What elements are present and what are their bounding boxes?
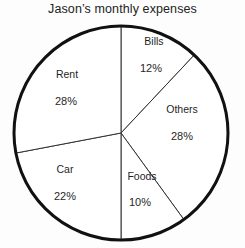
pie-slice-rent <box>14 26 121 153</box>
slice-value-rent: 28% <box>43 95 89 107</box>
slice-value-foods: 10% <box>119 196 161 208</box>
pie-chart-canvas <box>0 0 245 248</box>
slice-label-others: Others <box>158 103 206 115</box>
pie-chart-figure: Jason’s monthly expenses Bills 12% Other… <box>0 0 245 248</box>
slice-value-others: 28% <box>160 130 204 142</box>
slice-value-car: 22% <box>43 190 87 202</box>
slice-label-rent: Rent <box>46 68 88 80</box>
slice-label-foods: Foods <box>120 170 164 182</box>
slice-value-bills: 12% <box>130 62 172 74</box>
slice-label-car: Car <box>48 163 82 175</box>
slice-label-bills: Bills <box>134 35 174 47</box>
